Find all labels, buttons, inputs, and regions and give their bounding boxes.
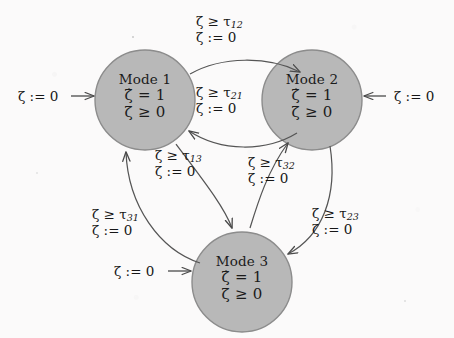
transition-arrow-t13[interactable]	[176, 144, 232, 228]
scan-speck	[404, 300, 406, 302]
transition-arrow-t32[interactable]	[250, 143, 288, 228]
edges-layer	[0, 0, 454, 338]
node-circle-mode2[interactable]	[262, 50, 362, 150]
node-circle-mode1[interactable]	[95, 50, 195, 150]
diagram-canvas: Mode 1 ζ̇ = 1 ζ ≥ 0 Mode 2 ζ̇ = 1 ζ ≥ 0 …	[0, 0, 454, 338]
node-circle-mode3[interactable]	[192, 232, 292, 332]
scan-speck	[132, 36, 134, 38]
transition-arrow-t23[interactable]	[288, 146, 332, 254]
transition-arrow-t31[interactable]	[126, 152, 200, 263]
node-circles	[95, 50, 362, 332]
scan-speck	[36, 172, 38, 174]
